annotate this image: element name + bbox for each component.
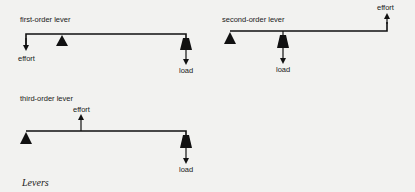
second-order-fulcrum-icon	[224, 32, 236, 44]
second-order-load-label: load	[276, 65, 290, 74]
levers-diagram: first-order lever effort load second-ord…	[0, 0, 415, 192]
first-order-load-label: load	[179, 66, 193, 75]
second-order-effort-label: effort	[377, 3, 395, 12]
second-order-load-weight-icon	[277, 35, 289, 48]
figure-caption: Levers	[21, 177, 49, 188]
third-order-beam	[26, 131, 186, 136]
third-order-lever: third-order lever effort load	[20, 94, 193, 174]
third-order-title: third-order lever	[20, 94, 73, 103]
second-order-title: second-order lever	[222, 15, 285, 24]
second-order-lever: second-order lever effort load	[222, 3, 395, 74]
first-order-title: first-order lever	[20, 15, 71, 24]
first-order-effort-label: effort	[18, 54, 36, 63]
third-order-effort-label: effort	[73, 105, 91, 114]
third-order-fulcrum-icon	[20, 132, 32, 144]
first-order-fulcrum-icon	[56, 35, 68, 46]
third-order-load-weight-icon	[180, 135, 192, 148]
third-order-load-label: load	[179, 165, 193, 174]
first-order-beam	[26, 34, 186, 49]
first-order-lever: first-order lever effort load	[18, 15, 193, 75]
first-order-load-weight-icon	[180, 38, 192, 50]
